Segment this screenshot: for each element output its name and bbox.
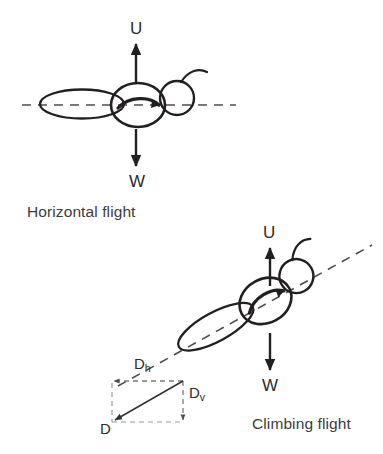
drag-vertical-label-base: D — [189, 384, 200, 401]
insect-antenna-top — [181, 70, 207, 82]
drag-resultant-arrow — [115, 381, 183, 420]
drag-horizontal-label: Dh — [134, 356, 151, 371]
drag-horizontal-label-base: D — [134, 355, 145, 372]
weight-label-horizontal: W — [129, 173, 145, 190]
insect-thorax-bottom — [231, 269, 299, 333]
caption-climbing-flight: Climbing flight — [252, 416, 351, 432]
panel-horizontal-flight — [22, 44, 236, 166]
drag-vertical-label-sub: v — [200, 391, 205, 403]
panel-climbing-flight — [112, 237, 372, 422]
insect-abdomen-bottom — [172, 294, 260, 360]
insect-antenna-bottom — [287, 237, 316, 260]
drag-resultant-label: D — [100, 421, 111, 436]
weight-label-climbing: W — [262, 377, 278, 394]
lift-label-climbing: U — [263, 224, 275, 241]
lift-label-horizontal: U — [130, 20, 142, 37]
insect-wing-arc-bottom — [245, 285, 286, 313]
drag-vertical-label: Dv — [189, 385, 205, 400]
insect-head-top — [160, 81, 194, 115]
drag-horizontal-label-sub: h — [145, 362, 151, 374]
flight-path-line-climbing — [118, 245, 372, 386]
caption-horizontal-flight: Horizontal flight — [27, 204, 136, 220]
